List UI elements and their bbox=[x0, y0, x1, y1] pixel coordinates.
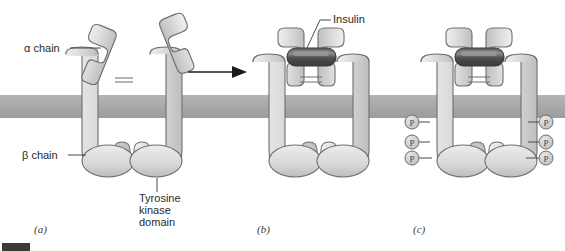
alpha-chain-label: α chain bbox=[24, 42, 60, 54]
phosphate-label: P bbox=[409, 154, 414, 164]
tyrosine-kinase-label-group: Tyrosine kinase domain bbox=[139, 178, 181, 228]
insulin-molecule bbox=[287, 48, 336, 66]
panel-a-alpha-chain-right bbox=[158, 12, 204, 76]
tyrosine-kinase-lobe bbox=[317, 145, 369, 177]
panel-caption-a: (a) bbox=[34, 223, 47, 236]
insulin-body bbox=[287, 48, 336, 66]
phosphate-label: P bbox=[543, 154, 548, 164]
phosphate-label: P bbox=[409, 118, 414, 128]
insulin-label: Insulin bbox=[333, 13, 365, 25]
tyrosine-kinase-label-line2: kinase bbox=[139, 204, 171, 216]
insulin-molecule bbox=[455, 48, 504, 66]
insulin-highlight bbox=[293, 51, 329, 56]
beta-chain-label-group: β chain bbox=[22, 149, 86, 161]
phosphate-label: P bbox=[543, 138, 548, 148]
corner-mark bbox=[2, 243, 30, 251]
tyrosine-kinase-lobe bbox=[485, 145, 537, 177]
beta-chain-top-round bbox=[337, 54, 369, 62]
panel-caption-b: (b) bbox=[257, 223, 270, 236]
panel-a-disulfide-bridge bbox=[115, 78, 133, 82]
beta-chain-label: β chain bbox=[22, 149, 58, 161]
panel-b: Insulin (b) bbox=[253, 13, 369, 236]
tyrosine-kinase-label-line3: domain bbox=[139, 216, 175, 228]
panel-c: P P P P P P (c) bbox=[405, 28, 553, 236]
phosphate-label: P bbox=[543, 118, 548, 128]
figure-canvas: α chain β chain Tyrosine kinase domain (… bbox=[0, 0, 565, 251]
beta-chain-top-round bbox=[253, 54, 285, 62]
beta-chain-top-round bbox=[421, 54, 453, 62]
tyrosine-kinase-lobe bbox=[437, 145, 489, 177]
phosphate-group-left: P P P bbox=[405, 115, 432, 165]
phosphate-label: P bbox=[409, 138, 414, 148]
tyrosine-kinase-label-line1: Tyrosine bbox=[139, 192, 181, 204]
tyrosine-kinase-lobe bbox=[269, 145, 321, 177]
tyrosine-kinase-lobe bbox=[82, 145, 134, 177]
panel-a: α chain β chain Tyrosine kinase domain (… bbox=[22, 12, 204, 236]
beta-chain-top-round bbox=[505, 54, 537, 62]
tyrosine-kinase-lobe bbox=[130, 145, 182, 177]
transition-arrow bbox=[188, 66, 247, 78]
arrow-head bbox=[232, 66, 247, 78]
insulin-body bbox=[455, 48, 504, 66]
insulin-receptor-figure: α chain β chain Tyrosine kinase domain (… bbox=[0, 0, 565, 251]
panel-caption-c: (c) bbox=[413, 223, 426, 236]
insulin-highlight bbox=[461, 51, 497, 56]
